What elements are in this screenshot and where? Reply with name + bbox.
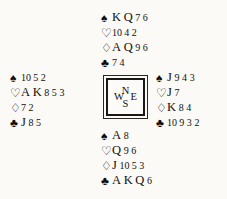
compass-label-south: S [123,99,129,110]
hand-west-hearts-cards: AK853 [21,86,65,99]
heart-icon: ♡ [101,27,112,39]
hand-west-diamonds-cards: 72 [21,101,34,114]
hand-south-hearts-cards: Q96 [112,144,137,157]
hand-west-clubs-cards: J85 [21,116,41,129]
hand-north-suit-clubs: ♣ 74 [101,56,148,71]
hand-north-diamonds-cards: AQ96 [112,41,148,54]
hand-east-suit-hearts: ♡ J7 [156,86,200,101]
heart-icon: ♡ [101,145,112,157]
spade-icon: ♠ [10,72,21,84]
hand-south-suit-diamonds: ♢ J1053 [101,159,152,174]
club-icon: ♣ [101,57,112,69]
hand-north-suit-spades: ♠ KQ76 [101,11,148,26]
club-icon: ♣ [10,117,21,129]
compass-label-east: E [131,92,137,103]
hand-north-suit-diamonds: ♢ AQ96 [101,41,148,56]
hand-south-spades-cards: A8 [112,129,129,142]
diamond-icon: ♢ [156,102,167,114]
diamond-icon: ♢ [10,102,21,114]
hand-east-hearts-cards: J7 [167,86,180,99]
hand-north-clubs-cards: 74 [112,56,125,69]
hand-north-suit-hearts: ♡ 1042 [101,26,148,41]
hand-east: ♠ J943 ♡ J7 ♢ K84 ♣ 10932 [156,71,200,131]
hand-east-suit-clubs: ♣ 10932 [156,116,200,131]
hand-south-clubs-cards: AKQ6 [112,174,152,187]
hand-east-suit-spades: ♠ J943 [156,71,200,86]
hand-north-spades-cards: KQ76 [112,11,148,24]
hand-west: ♠ 1052 ♡ AK853 ♢ 72 ♣ J85 [10,71,65,131]
hand-south-diamonds-cards: J1053 [112,159,145,172]
hand-north: ♠ KQ76 ♡ 1042 ♢ AQ96 ♣ 74 [101,11,148,71]
heart-icon: ♡ [156,87,167,99]
heart-icon: ♡ [10,87,21,99]
spade-icon: ♠ [156,72,167,84]
spade-icon: ♠ [101,130,112,142]
hand-north-hearts-cards: 1042 [112,26,137,39]
compass-box-inner-border: N W E S [106,78,145,116]
hand-east-clubs-cards: 10932 [167,116,200,129]
hand-east-suit-diamonds: ♢ K84 [156,101,200,116]
hand-east-spades-cards: J943 [167,71,195,84]
hand-west-spades-cards: 1052 [21,71,46,84]
club-icon: ♣ [101,175,112,187]
diamond-icon: ♢ [101,160,112,172]
hand-west-suit-clubs: ♣ J85 [10,116,65,131]
club-icon: ♣ [156,117,167,129]
spade-icon: ♠ [101,12,112,24]
hand-south-suit-clubs: ♣ AKQ6 [101,174,152,189]
compass-box: N W E S [103,75,148,119]
hand-west-suit-hearts: ♡ AK853 [10,86,65,101]
hand-west-suit-diamonds: ♢ 72 [10,101,65,116]
hand-south-suit-hearts: ♡ Q96 [101,144,152,159]
hand-south-suit-spades: ♠ A8 [101,129,152,144]
hand-east-diamonds-cards: K84 [167,101,192,114]
diamond-icon: ♢ [101,42,112,54]
bridge-hand-diagram: ♠ KQ76 ♡ 1042 ♢ AQ96 ♣ 74 ♠ 1052 ♡ AK853… [0,0,227,199]
hand-west-suit-spades: ♠ 1052 [10,71,65,86]
hand-south: ♠ A8 ♡ Q96 ♢ J1053 ♣ AKQ6 [101,129,152,189]
